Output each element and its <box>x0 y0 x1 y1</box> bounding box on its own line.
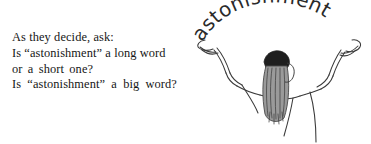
scanned-page: As they decide, ask: Is “astonishment” a… <box>0 0 371 144</box>
right-arm <box>300 40 361 142</box>
arc-word-astonishment: astonishment <box>186 0 335 45</box>
hand-drawn-illustration: astonishment <box>186 0 371 144</box>
left-arm <box>198 40 260 95</box>
